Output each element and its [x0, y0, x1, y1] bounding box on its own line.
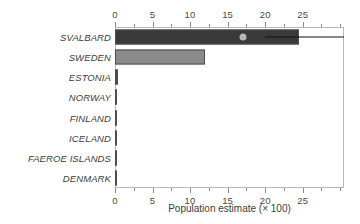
category-label: SVALBARD [0, 32, 111, 43]
x-tick-minor [321, 188, 322, 191]
x-tick-minor [209, 188, 210, 191]
x-tick-major [115, 188, 116, 193]
category-label: DENMARK [0, 172, 111, 183]
x-tick-minor [171, 188, 172, 191]
x-tick-major [228, 188, 229, 193]
bar [115, 50, 205, 65]
category-label: ESTONIA [0, 72, 111, 83]
x-tick-label: 15 [222, 9, 233, 20]
x-tick-minor [246, 188, 247, 191]
category-label: FINLAND [0, 112, 111, 123]
bar [115, 70, 118, 85]
bar [115, 110, 117, 125]
y-axis-category-labels: SVALBARDSWEDENESTONIANORWAYFINLANDICELAN… [0, 27, 111, 188]
x-tick-major [190, 188, 191, 193]
x-tick-major [265, 188, 266, 193]
x-tick-minor [134, 188, 135, 191]
x-tick-minor [340, 188, 341, 191]
x-tick-label: 20 [260, 9, 271, 20]
bar [115, 130, 117, 145]
error-bar-whisker [265, 37, 344, 38]
bar [115, 90, 117, 105]
x-axis-title: Population estimate (× 100) [115, 203, 344, 214]
bar-series [115, 27, 344, 188]
x-tick-label: 25 [297, 9, 308, 20]
x-tick-label: 0 [112, 9, 117, 20]
x-tick-label: 10 [185, 9, 196, 20]
median-marker-dot [239, 34, 246, 41]
bar [115, 150, 117, 165]
category-label: NORWAY [0, 92, 111, 103]
x-tick-minor [284, 188, 285, 191]
category-label: SWEDEN [0, 52, 111, 63]
x-tick-major [153, 188, 154, 193]
x-tick-label: 5 [150, 9, 155, 20]
bar [115, 170, 117, 185]
category-label: FAEROE ISLANDS [0, 152, 111, 163]
x-tick-major [303, 188, 304, 193]
chart-figure: 0510152025 0510152025 SVALBARDSWEDENESTO… [0, 0, 360, 224]
category-label: ICELAND [0, 132, 111, 143]
